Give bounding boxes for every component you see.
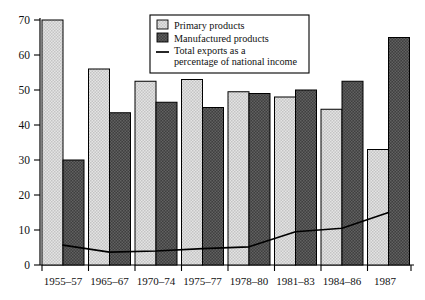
chart-legend: Primary products Manufactured products T…	[150, 15, 309, 73]
bar-primary-1984-86	[321, 109, 342, 265]
x-label-1975-77: 1975–77	[183, 275, 222, 287]
legend-swatch-primary-icon	[157, 20, 168, 29]
chart-svg: 0 10 20 30 40 50 60 70	[0, 0, 425, 300]
bar-primary-1955-57	[42, 20, 63, 265]
x-label-1978-80: 1978–80	[230, 275, 269, 287]
x-label-1970-74: 1970–74	[137, 275, 176, 287]
bar-manufactured-1984-86	[342, 81, 363, 265]
legend-label-manufactured: Manufactured products	[174, 33, 269, 44]
bar-manufactured-1965-67	[110, 113, 131, 265]
y-tick-label-0: 0	[24, 259, 30, 271]
bar-primary-1981-83	[275, 97, 296, 265]
y-tick-label-20: 20	[19, 189, 31, 201]
y-tick-label-30: 30	[19, 154, 31, 166]
x-label-1987: 1987	[374, 275, 397, 287]
legend-label-primary: Primary products	[174, 20, 244, 31]
bar-primary-1965-67	[89, 69, 110, 265]
y-tick-label-10: 10	[19, 224, 31, 236]
legend-label-line-2: percentage of national income	[174, 56, 298, 67]
bar-manufactured-1975-77	[203, 108, 224, 266]
x-label-1984-86: 1984–86	[323, 275, 362, 287]
bar-manufactured-1987	[389, 38, 410, 266]
legend-label-line-1: Total exports as a	[174, 45, 246, 56]
bar-manufactured-1955-57	[63, 160, 84, 265]
bar-manufactured-1978-80	[249, 94, 270, 266]
y-tick-label-40: 40	[19, 119, 31, 131]
y-tick-label-50: 50	[19, 84, 31, 96]
export-composition-chart: 0 10 20 30 40 50 60 70	[0, 0, 425, 300]
bar-primary-1975-77	[182, 80, 203, 266]
x-axis-labels: 1955–57 1965–67 1970–74 1975–77 1978–80 …	[44, 275, 397, 287]
bar-manufactured-1981-83	[296, 90, 317, 265]
bar-primary-1970-74	[135, 81, 156, 265]
bar-primary-1978-80	[228, 92, 249, 265]
y-tick-label-60: 60	[19, 49, 31, 61]
bar-primary-1987	[368, 150, 389, 266]
x-label-1955-57: 1955–57	[44, 275, 83, 287]
bar-manufactured-1970-74	[156, 102, 177, 265]
x-label-1981-83: 1981–83	[276, 275, 315, 287]
legend-swatch-manufactured-icon	[157, 33, 168, 42]
y-tick-label-70: 70	[19, 14, 31, 26]
x-label-1965-67: 1965–67	[90, 275, 129, 287]
